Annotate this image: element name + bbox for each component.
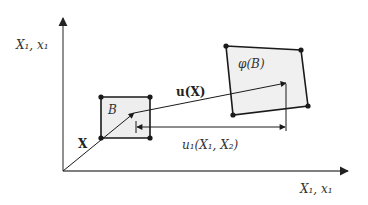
displacement-vector-label: u(X) — [176, 85, 205, 99]
corner-node — [98, 94, 103, 99]
position-vector-arrow — [63, 113, 134, 171]
corner-node — [147, 94, 152, 99]
displacement-component-label: u₁(X₁, X₂) — [182, 138, 239, 152]
current-body-label: φ(B) — [238, 57, 265, 71]
current-body-quad — [223, 43, 310, 117]
reference-body-square — [98, 94, 152, 140]
corner-node — [305, 103, 310, 108]
deformation-diagram: X₁, x₁ X₁, x₁ B φ(B) X u(X) u₁(X₁, X₂) — [0, 0, 368, 205]
reference-body-label: B — [107, 103, 117, 117]
corner-node — [147, 135, 152, 140]
corner-node — [298, 47, 303, 52]
position-vector-label: X — [78, 137, 88, 151]
corner-node — [230, 112, 235, 117]
vertical-axis-label: X₁, x₁ — [15, 38, 49, 52]
horizontal-axis-label: X₁, x₁ — [299, 182, 333, 196]
corner-node — [223, 43, 228, 48]
